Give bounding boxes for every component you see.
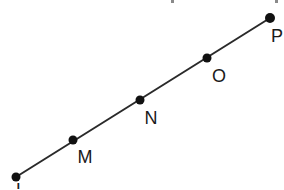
point-group-L: L	[12, 173, 27, 190]
point-group-M: M	[69, 136, 93, 168]
point-dot-O	[203, 54, 212, 63]
point-dot-M	[69, 136, 78, 145]
point-group-O: O	[203, 54, 227, 87]
point-dot-N	[136, 96, 145, 105]
point-label-N: N	[145, 108, 158, 128]
point-group-P: P	[265, 13, 283, 46]
point-label-P: P	[271, 26, 283, 46]
figure-canvas: L M N O P	[0, 0, 284, 189]
edge-artifact-group	[171, 0, 278, 3]
point-group-N: N	[136, 96, 158, 129]
point-label-M: M	[78, 147, 93, 167]
point-label-O: O	[212, 66, 226, 86]
top-edge-artifact-right	[275, 0, 278, 3]
point-dot-P	[265, 13, 275, 23]
geometry-figure: L M N O P	[0, 0, 284, 189]
point-label-L: L	[16, 180, 26, 189]
top-edge-artifact-left	[171, 0, 174, 3]
